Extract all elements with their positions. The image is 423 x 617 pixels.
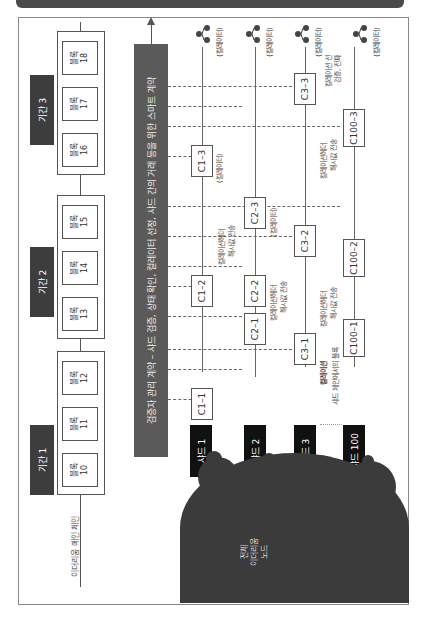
collation-c100-1: C100–1 — [343, 319, 365, 357]
block-label: 블록 — [70, 261, 80, 275]
collation-c1-2: C1–2 — [191, 275, 213, 307]
block-label: 블록 — [70, 143, 80, 157]
period-2-tag: 기간 2 — [30, 247, 54, 317]
block-number: 15 — [80, 217, 90, 227]
full-nodes-label-l2: 이더리움 — [250, 527, 260, 577]
period-3-tag: 기간 3 — [30, 75, 54, 145]
blob-bubble — [344, 461, 396, 513]
dashed-connector — [168, 86, 292, 87]
block-14: 블록14 — [62, 251, 98, 285]
collation-c100-3: C100–3 — [343, 109, 365, 147]
shard-1-chain-line — [202, 47, 203, 372]
collation-c1-3: C1–3 — [191, 145, 213, 177]
hash-submit-note-l1: 컬레이션헤더 — [218, 229, 227, 265]
block-label: 블록 — [70, 463, 80, 477]
hash-submit-note-l2: 해시값 전송 — [280, 281, 289, 313]
block-15: 블록15 — [62, 205, 98, 239]
collation-c2-1: C2–1 — [244, 313, 266, 345]
collator-label: (컬레이터) — [216, 154, 225, 183]
dashed-connector — [168, 126, 340, 127]
full-nodes-label-l1: 전체 — [240, 527, 250, 577]
sharding-diagram: 이더리움 메인 체인 기간 1 블록10 블록11 블록12 기간 2 블록13… — [0, 0, 423, 617]
block-number: 17 — [80, 99, 90, 109]
block-label: 블록 — [70, 307, 80, 321]
hash-submit-note-l1: 컬레이션헤더 — [320, 143, 329, 179]
block-number: 16 — [80, 145, 90, 155]
verify-note-l2: 검증, 전파 — [334, 55, 343, 83]
collation-c1-1: C1–1 — [191, 388, 213, 420]
block-11: 블록11 — [62, 407, 98, 441]
block-13: 블록13 — [62, 297, 98, 331]
block-number: 13 — [80, 309, 90, 319]
block-label: 블록 — [70, 51, 80, 65]
blob-bubble — [296, 453, 310, 467]
collator-group-icon — [195, 23, 215, 45]
block-label: 블록 — [70, 417, 80, 431]
collation-c3-1: C3–1 — [294, 333, 316, 365]
period-1-tag: 기간 1 — [30, 425, 54, 495]
vmc-arrow-icon — [147, 17, 155, 25]
block-12: 블록12 — [62, 361, 98, 395]
block-label: 블록 — [70, 97, 80, 111]
block-number: 12 — [80, 373, 90, 383]
dashed-connector — [168, 349, 292, 350]
shard-ellipsis-dots — [320, 423, 342, 425]
dashed-connector — [168, 369, 242, 370]
block-16: 블록16 — [62, 133, 98, 167]
verify-note-l1: 컬레이션 선 — [325, 55, 334, 87]
collation-c2-3: C2–3 — [244, 197, 266, 229]
dashed-connector — [168, 266, 242, 267]
vmc-banner: 검증자 관리 계약 – 샤드 검증, 상태 확인, 컬레이터 선정, 샤드 간의… — [134, 44, 168, 457]
collator-group-icon — [245, 23, 265, 45]
collation-c3-3: C3–3 — [294, 73, 316, 105]
block-label: 블록 — [70, 371, 80, 385]
full-nodes-label-l3: 노드 — [260, 527, 270, 577]
block-number: 10 — [80, 465, 90, 475]
blob-bubble — [362, 455, 374, 467]
collator-label: (컬레이터) — [270, 208, 279, 237]
collation-c100-2: C100–2 — [343, 239, 365, 277]
collator-label: (컬레이터) — [266, 22, 275, 62]
hash-submit-note-l1: 컬레이션헤더 — [320, 291, 329, 327]
blob-bubble — [206, 451, 222, 467]
block-17: 블록17 — [62, 87, 98, 121]
block-number: 18 — [80, 53, 90, 63]
hash-submit-note-l2: 해시값 전송 — [228, 225, 237, 257]
dashed-connector — [168, 316, 242, 317]
block-10: 블록10 — [62, 453, 98, 487]
collator-label: (컬레이터) — [315, 22, 324, 62]
block-number: 14 — [80, 263, 90, 273]
hash-submit-note-l1: 컬레이션헤더 — [270, 285, 279, 321]
collator-label: (컬레이터) — [216, 22, 225, 62]
collation-c3-2: C3–2 — [294, 225, 316, 257]
collation-c2-2: C2–2 — [244, 275, 266, 307]
full-nodes-label: 전체 이더리움 노드 — [240, 527, 270, 577]
dashed-connector — [168, 106, 242, 107]
collator-label: (컬레이터) — [373, 22, 382, 62]
hash-submit-note-l2: 해시값 전송 — [330, 287, 339, 319]
block-label: 블록 — [70, 215, 80, 229]
block-number: 11 — [80, 419, 90, 429]
main-chain-label: 이더리움 메인 체인 — [71, 514, 80, 579]
collation-title: 컬레이션 — [320, 361, 329, 385]
vmc-arrow-shaft — [151, 24, 152, 44]
hash-submit-note-l2: 해시값 전송 — [330, 139, 339, 171]
collation-desc: 샤드 체인에서의 블록 — [332, 347, 341, 405]
blob-bubble — [262, 453, 276, 467]
block-18: 블록18 — [62, 41, 98, 75]
collator-group-icon — [294, 23, 314, 45]
collator-group-icon — [352, 23, 372, 45]
